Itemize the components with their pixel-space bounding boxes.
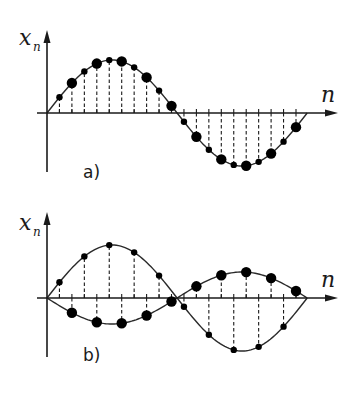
- sample-dot: [92, 58, 102, 68]
- panel-a-x-label: n: [321, 82, 335, 107]
- sample-dot: [166, 101, 176, 111]
- sample-dot: [280, 138, 286, 144]
- panel-b-x-arrow-icon: [325, 295, 338, 302]
- sample-dot: [81, 68, 87, 74]
- sample-dot: [81, 253, 87, 259]
- sample-dot: [255, 344, 261, 350]
- signal-diagram: x n n a) x n n b): [0, 0, 354, 393]
- sample-dot: [67, 308, 77, 318]
- sample-dot: [56, 94, 62, 100]
- sample-dot: [92, 317, 102, 327]
- panel-a: x n n a): [19, 25, 338, 182]
- panel-b-caption: b): [83, 345, 100, 365]
- sample-dot: [216, 154, 226, 164]
- sample-dot: [67, 78, 77, 88]
- sample-dot: [206, 147, 212, 153]
- sample-dot: [156, 272, 162, 278]
- panel-b: x n n b): [19, 210, 338, 365]
- sample-dot: [181, 304, 187, 310]
- sample-dot: [216, 270, 226, 280]
- panel-a-y-arrow-icon: [44, 30, 51, 43]
- sample-dot: [231, 347, 237, 353]
- sample-dot: [181, 119, 187, 125]
- sample-dot: [56, 279, 62, 285]
- sample-dot: [206, 332, 212, 338]
- sample-dot: [117, 56, 127, 66]
- panel-a-y-subscript: n: [33, 40, 41, 54]
- sample-dot: [255, 159, 261, 165]
- panel-a-caption: a): [83, 162, 100, 182]
- sample-dot: [166, 296, 176, 306]
- sample-dot: [191, 132, 201, 142]
- panel-a-y-label: x: [19, 25, 32, 50]
- sample-dot: [291, 122, 301, 132]
- panel-b-y-subscript: n: [33, 225, 41, 239]
- panel-b-y-arrow-icon: [44, 212, 51, 225]
- sample-dot: [241, 161, 251, 171]
- sample-dot: [117, 318, 127, 328]
- sample-dot: [266, 273, 276, 283]
- sample-dot: [106, 57, 112, 63]
- sample-dot: [106, 242, 112, 248]
- sample-dot: [141, 310, 151, 320]
- sample-dot: [141, 72, 151, 82]
- sample-dot: [241, 267, 251, 277]
- sample-dot: [131, 249, 137, 255]
- sample-dot: [231, 162, 237, 168]
- panel-b-y-label: x: [19, 210, 32, 235]
- sample-dot: [156, 87, 162, 93]
- sample-dot: [131, 64, 137, 70]
- sample-dot: [280, 323, 286, 329]
- panel-b-x-label: n: [321, 267, 335, 292]
- sample-dot: [266, 148, 276, 158]
- sample-dot: [291, 286, 301, 296]
- sample-dot: [191, 281, 201, 291]
- panel-a-x-arrow-icon: [325, 110, 338, 117]
